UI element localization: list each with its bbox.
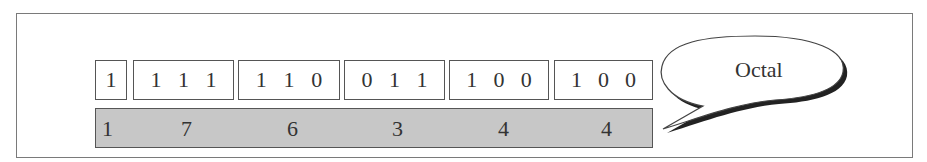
octal-digit: 7 <box>181 116 192 142</box>
bit: 0 <box>625 67 636 93</box>
octal-digit: 3 <box>392 116 403 142</box>
bit-group-3: 0 1 1 <box>344 60 445 100</box>
bit: 1 <box>284 67 295 93</box>
bit-group-0: 1 <box>95 60 127 100</box>
bit: 1 <box>417 67 428 93</box>
octal-digit: 6 <box>287 116 298 142</box>
bit: 0 <box>598 67 609 93</box>
octal-digit: 4 <box>498 116 509 142</box>
octal-result-bar: 1 7 6 3 4 4 <box>95 108 653 148</box>
bit: 1 <box>256 67 267 93</box>
bit-group-5: 1 0 0 <box>554 60 653 100</box>
bit: 1 <box>571 67 582 93</box>
bit-group-2: 1 1 0 <box>238 60 340 100</box>
bit: 0 <box>494 67 505 93</box>
bit: 1 <box>466 67 477 93</box>
bit: 0 <box>311 67 322 93</box>
bit-group-1: 1 1 1 <box>133 60 234 100</box>
bit: 1 <box>151 67 162 93</box>
callout-label: Octal <box>735 57 783 83</box>
bit: 1 <box>389 67 400 93</box>
bit: 1 <box>106 67 117 93</box>
bit: 1 <box>178 67 189 93</box>
bit: 0 <box>521 67 532 93</box>
octal-digit: 1 <box>102 116 113 142</box>
octal-digit: 4 <box>601 116 612 142</box>
speech-bubble-icon <box>655 28 855 138</box>
bit-group-4: 1 0 0 <box>449 60 549 100</box>
bit: 0 <box>362 67 373 93</box>
bit: 1 <box>206 67 217 93</box>
